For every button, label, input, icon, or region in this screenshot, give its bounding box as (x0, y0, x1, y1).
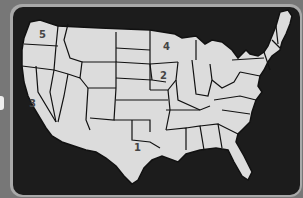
us-landmass (22, 10, 292, 184)
region-label-1: 1 (134, 142, 141, 153)
region-label-5: 5 (39, 29, 46, 40)
region-label-3: 3 (29, 98, 36, 109)
region-label-2: 2 (160, 70, 167, 81)
screen-background: 5 4 2 3 1 (0, 0, 303, 198)
region-label-4: 4 (163, 41, 170, 52)
